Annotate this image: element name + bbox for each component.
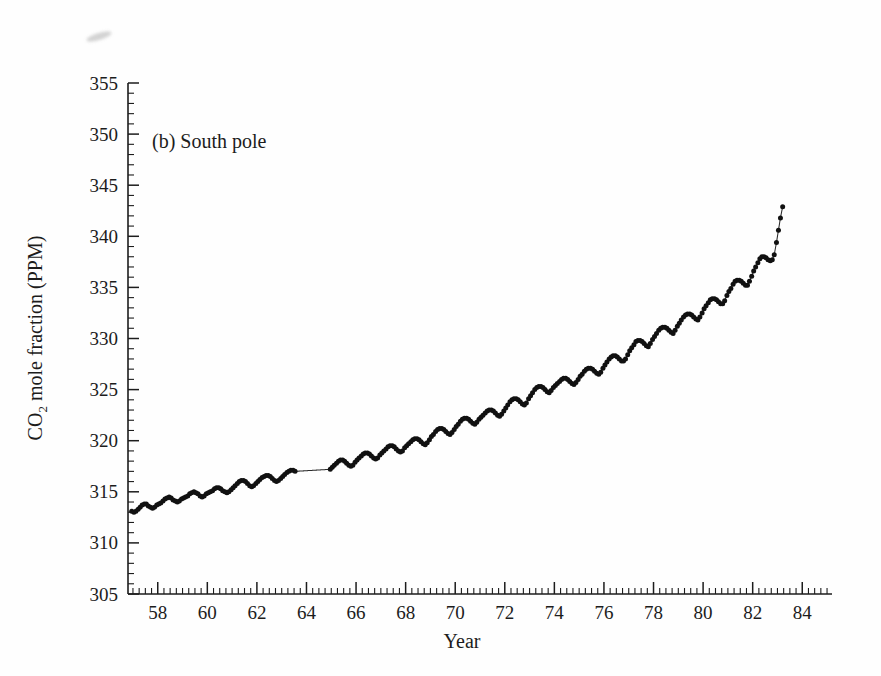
axes [128, 83, 832, 594]
y-tick-label: 350 [90, 124, 119, 145]
y-tick-label: 305 [90, 584, 119, 605]
x-tick-label: 74 [545, 602, 565, 623]
x-axis-title: Year [444, 630, 481, 652]
x-axis-tick-labels: 5860626466687072747678808284 [148, 602, 812, 623]
y-axis-title-suffix: mole fraction (PPM) [24, 236, 47, 407]
y-tick-label: 345 [90, 175, 119, 196]
data-series-south-pole [129, 204, 785, 515]
x-tick-label: 70 [446, 602, 465, 623]
y-tick-label: 320 [90, 430, 119, 451]
panel-label: (b) South pole [152, 130, 267, 153]
y-tick-label: 330 [90, 328, 119, 349]
x-axis-ticks [133, 582, 827, 594]
data-point [293, 469, 298, 474]
data-point [774, 240, 779, 245]
x-tick-label: 72 [495, 602, 514, 623]
data-point [776, 228, 781, 233]
y-axis-title-prefix: CO [24, 413, 46, 441]
x-tick-label: 82 [743, 602, 762, 623]
x-tick-label: 80 [694, 602, 713, 623]
y-axis-tick-labels: 305310315320325330335340345350355 [90, 73, 119, 605]
data-point [722, 298, 727, 303]
x-tick-label: 58 [148, 602, 167, 623]
x-tick-label: 60 [198, 602, 217, 623]
x-tick-label: 68 [396, 602, 415, 623]
figure-panel: 305310315320325330335340345350355 586062… [0, 0, 881, 676]
x-tick-label: 64 [297, 602, 317, 623]
y-tick-label: 340 [90, 226, 119, 247]
data-point [780, 204, 785, 209]
data-point [747, 279, 752, 284]
x-tick-label: 66 [347, 602, 366, 623]
x-tick-label: 84 [793, 602, 813, 623]
fitted-curve [132, 207, 783, 512]
y-tick-label: 310 [90, 532, 119, 553]
data-point [772, 252, 777, 257]
data-point [770, 257, 775, 262]
y-tick-label: 335 [90, 277, 119, 298]
x-tick-label: 62 [247, 602, 266, 623]
y-tick-label: 325 [90, 379, 119, 400]
x-tick-label: 78 [644, 602, 663, 623]
co2-line-chart: 305310315320325330335340345350355 586062… [0, 0, 881, 676]
svg-text:CO2 mole fraction (PPM): CO2 mole fraction (PPM) [24, 236, 50, 441]
x-tick-label: 76 [594, 602, 613, 623]
y-tick-label: 355 [90, 73, 119, 94]
y-axis-title: CO2 mole fraction (PPM) [24, 236, 50, 441]
data-point [749, 274, 754, 279]
y-tick-label: 315 [90, 481, 119, 502]
data-point [778, 215, 783, 220]
y-axis-ticks [128, 83, 139, 594]
data-point-dots [129, 204, 785, 515]
